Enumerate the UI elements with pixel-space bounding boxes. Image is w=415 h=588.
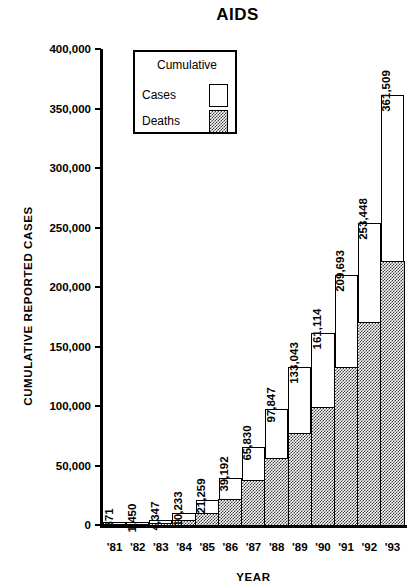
bar-value-label: 361,509 [380, 70, 392, 112]
bar: 10,233 [172, 513, 195, 525]
bar-deaths-segment [334, 367, 358, 525]
x-tick-label: '87 [246, 541, 262, 553]
y-tick-label: 200,000 [49, 281, 91, 293]
bar: 209,693 [335, 275, 358, 525]
x-tick-label: '92 [362, 541, 378, 553]
bar-deaths-segment [288, 433, 312, 526]
bar: 361,509 [381, 95, 404, 525]
x-tick-label: '93 [385, 541, 401, 553]
y-tick-label: 0 [85, 519, 91, 531]
legend-item-deaths: Deaths [142, 110, 232, 134]
bar-value-label: 253,448 [357, 199, 369, 241]
bar-deaths-segment [311, 407, 335, 526]
bar-value-label: 133,043 [288, 342, 300, 384]
y-tick-mark [95, 227, 101, 229]
legend-title: Cumulative [135, 58, 239, 72]
bar-deaths-segment [218, 499, 242, 525]
y-tick-mark [95, 48, 101, 50]
bar-deaths-segment [195, 513, 219, 526]
bar-value-label: 39,192 [218, 457, 230, 492]
bar: 161,114 [311, 333, 334, 525]
bar: 1,450 [126, 522, 149, 525]
y-tick-label: 400,000 [49, 43, 91, 55]
legend-swatch-cases [209, 84, 228, 107]
bar-deaths-segment [241, 480, 265, 525]
bar-value-label: 97,847 [265, 387, 277, 422]
bar: 65,830 [242, 447, 265, 525]
y-tick-label: 150,000 [49, 341, 91, 353]
bar: 97,847 [265, 409, 288, 525]
y-axis-title: CUMULATIVE REPORTED CASES [22, 146, 34, 466]
x-axis-title: YEAR [103, 571, 404, 583]
y-tick-label: 50,000 [56, 460, 91, 472]
y-tick-label: 100,000 [49, 400, 91, 412]
x-tick-label: '88 [269, 541, 285, 553]
bar-value-label: 161,114 [311, 309, 323, 350]
bar: 39,192 [219, 478, 242, 525]
bar-deaths-segment [264, 458, 288, 526]
x-tick-label: '86 [223, 541, 239, 553]
bar-value-label: 1,450 [126, 504, 138, 533]
y-tick-mark [95, 346, 101, 348]
y-tick-mark [95, 405, 101, 407]
chart-title: AIDS [0, 5, 415, 25]
legend-swatch-deaths [209, 110, 228, 133]
y-tick-mark [95, 524, 101, 526]
legend-item-cases-label: Cases [142, 88, 176, 102]
x-tick-label: '84 [176, 541, 192, 553]
bar-value-label: 10,233 [172, 491, 184, 526]
y-tick-mark [95, 108, 101, 110]
x-tick-label: '85 [199, 541, 215, 553]
bar: 371 [103, 522, 126, 525]
bar-value-label: 65,830 [241, 425, 253, 460]
x-tick-label: '91 [338, 541, 354, 553]
y-tick-mark [95, 167, 101, 169]
bar-value-label: 209,693 [334, 251, 346, 293]
y-tick-label: 350,000 [49, 103, 91, 115]
bar-deaths-segment [357, 322, 381, 525]
legend-item-cases: Cases [142, 84, 232, 108]
bar-value-label: 4,347 [149, 501, 161, 530]
x-tick-label: '89 [292, 541, 308, 553]
x-tick-label: '81 [107, 541, 123, 553]
legend: Cumulative Cases Deaths [133, 50, 237, 134]
y-tick-mark [95, 286, 101, 288]
x-tick-label: '82 [130, 541, 146, 553]
legend-item-deaths-label: Deaths [142, 114, 180, 128]
y-tick-label: 300,000 [49, 162, 91, 174]
bar-deaths-segment [380, 261, 404, 525]
y-tick-mark [95, 465, 101, 467]
bar: 133,043 [288, 367, 311, 525]
bar: 4,347 [149, 520, 172, 525]
bar-value-label: 21,259 [195, 478, 207, 513]
x-tick-label: '90 [315, 541, 331, 553]
bar-value-label: 371 [103, 508, 115, 527]
x-tick-label: '83 [153, 541, 169, 553]
y-tick-label: 250,000 [49, 222, 91, 234]
bar: 21,259 [196, 500, 219, 525]
bar: 253,448 [358, 223, 381, 525]
